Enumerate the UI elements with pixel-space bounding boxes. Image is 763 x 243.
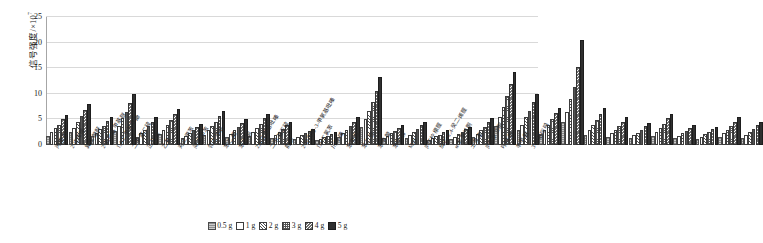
legend-item: 0.5 g [208,221,233,230]
legend-label: 4 g [315,221,325,230]
legend-item: 4 g [305,221,324,230]
y-tick-5: 5 [20,115,42,123]
bar-group [360,17,382,145]
legend-label: 0.5 g [217,221,232,230]
y-tick-20: 20 [20,39,42,47]
y-axis-tick-labels: 0510152025 [18,0,42,243]
bar-group [472,17,494,145]
bar-group [561,17,583,145]
y-tick-10: 10 [20,90,42,98]
bar-group [606,17,628,145]
legend-swatch [208,222,216,230]
legend-item: 2 g [259,221,278,230]
legend-label: 1 g [246,221,256,230]
legend-label: 2 g [269,221,279,230]
y-tick-0: 0 [20,141,42,149]
legend-swatch [328,222,336,230]
bar-group [673,17,695,145]
legend-swatch [236,222,244,230]
bar-group [158,17,180,145]
bar-group [405,17,427,145]
legend-label: 5 g [338,221,348,230]
legend-item: 5 g [328,221,347,230]
bar-group [337,17,359,145]
bar-group [180,17,202,145]
x-axis-tick-labels: 丙酸酐2-戊烯醛異戊酸酐2-氯乙基甲基醚1,4-二甲基苯酚二甲基二硫正己醛乙苯对… [46,146,538,216]
legend-swatch [259,222,267,230]
bar-group [517,17,539,145]
legend-item: 1 g [236,221,255,230]
bar-group [46,17,68,145]
legend-swatch [305,222,313,230]
bar [759,122,763,146]
chart-legend: 0.5 g1 g2 g3 g4 g5 g [0,221,555,230]
bar-group [696,17,718,145]
bar-group [225,17,247,145]
bar-group [629,17,651,145]
bar-group [584,17,606,145]
bar-group [741,17,763,145]
bar-group [718,17,740,145]
legend-item: 3 g [282,221,301,230]
bar-group [91,17,113,145]
bar-group [68,17,90,145]
legend-swatch [282,222,290,230]
y-tick-25: 25 [20,13,42,21]
y-tick-15: 15 [20,64,42,72]
bar-group [382,17,404,145]
bar-group [651,17,673,145]
legend-label: 3 g [292,221,302,230]
